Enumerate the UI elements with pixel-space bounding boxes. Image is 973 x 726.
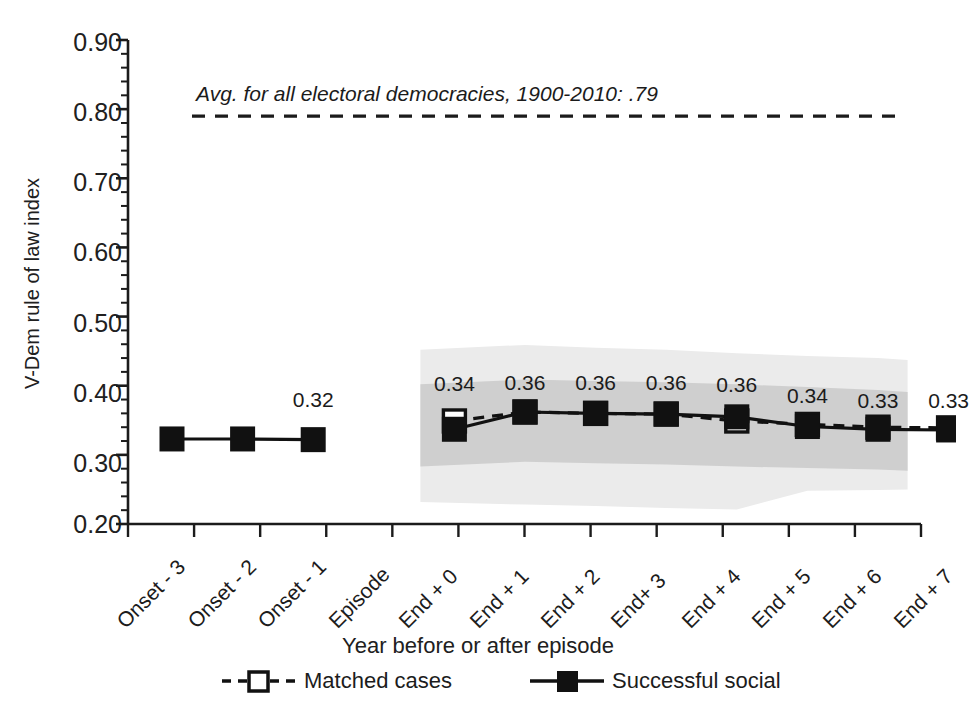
- marker-successful-social: [583, 401, 608, 426]
- legend-item-matched-cases[interactable]: Matched cases: [222, 668, 452, 694]
- legend-label-successful-social: Successful social: [612, 668, 781, 694]
- x-axis-title: Year before or after episode: [0, 633, 956, 659]
- marker-successful-social: [230, 426, 255, 451]
- legend-item-successful-social[interactable]: Successful social: [530, 668, 781, 694]
- data-label-end-1: 0.36: [494, 371, 556, 395]
- marker-successful-social: [654, 402, 679, 427]
- data-label-end-0: 0.34: [423, 372, 485, 396]
- data-label-onset-1: 0.32: [282, 388, 344, 412]
- legend-marker-filled-square: [530, 668, 604, 694]
- marker-successful-social: [866, 417, 891, 442]
- marker-successful-social: [724, 404, 749, 429]
- data-label-end-2: 0.36: [565, 371, 627, 395]
- marker-successful-social: [795, 414, 820, 439]
- legend-marker-open-square: [222, 668, 296, 694]
- reference-line-annotation: Avg. for all electoral democracies, 1900…: [196, 82, 658, 106]
- marker-successful-social: [936, 417, 956, 442]
- data-label-end-3: 0.36: [635, 371, 697, 395]
- legend-label-matched-cases: Matched cases: [304, 668, 452, 694]
- data-label-end-4: 0.36: [706, 373, 768, 397]
- data-label-end-6: 0.33: [847, 389, 909, 413]
- marker-successful-social: [301, 427, 326, 452]
- marker-successful-social: [160, 426, 185, 451]
- marker-successful-social: [442, 417, 467, 442]
- chart-legend: Matched cases Successful social: [0, 663, 956, 708]
- data-label-end-5: 0.34: [776, 384, 838, 408]
- data-label-end-7: 0.33: [918, 389, 973, 413]
- marker-successful-social: [513, 399, 538, 424]
